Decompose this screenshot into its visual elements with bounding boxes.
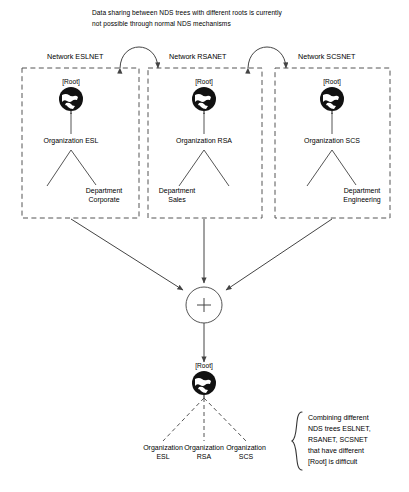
diagram-canvas: Data sharing between NDS trees with diff… <box>0 0 409 492</box>
callout-line1: Combining different <box>308 413 369 423</box>
root-label-rsanet: [Root] <box>195 78 213 86</box>
department-label-corporate-line2: Corporate <box>88 196 119 204</box>
merged-organization-esl-line2: ESL <box>156 453 169 461</box>
callout-line3: RSANET, SCSNET <box>308 435 368 445</box>
merge-node-circle <box>186 287 222 323</box>
merged-organization-scs-line2: SCS <box>239 453 253 461</box>
organization-label-esl: Organization ESL <box>44 137 99 145</box>
diagram-caption-line1: Data sharing between NDS trees with diff… <box>92 9 282 17</box>
sharing-arc-rsa-scs <box>248 47 286 68</box>
department-label-engineering-line1: Department <box>344 187 381 195</box>
merged-tree-edges <box>163 398 246 441</box>
merged-root-label: [Root] <box>195 362 213 370</box>
network-label-eslnet: Network ESLNET <box>47 53 103 61</box>
organization-label-scs: Organization SCS <box>304 137 360 145</box>
tree-edges-rsanet <box>179 113 229 186</box>
callout-line5: [Root] is difficult <box>308 457 357 467</box>
globe-icon <box>190 370 218 402</box>
network-label-scsnet: Network SCSNET <box>298 53 356 61</box>
merged-organization-rsa-line1: Organization <box>184 444 224 452</box>
curly-brace-icon <box>292 412 302 470</box>
merge-arrow-from-scsnet <box>226 219 332 290</box>
department-label-engineering-line2: Engineering <box>343 196 380 204</box>
network-label-rsanet: Network RSANET <box>169 53 227 61</box>
sharing-arc-esl-rsa <box>120 47 158 68</box>
root-label-scsnet: [Root] <box>323 78 341 86</box>
merged-organization-scs-line1: Organization <box>226 444 266 452</box>
department-label-sales-line2: Sales <box>168 196 186 204</box>
department-label-sales-line1: Department <box>159 187 196 195</box>
tree-edges-eslnet <box>47 113 96 186</box>
globe-icon <box>57 86 85 118</box>
organization-label-rsa: Organization RSA <box>176 137 232 145</box>
merged-organization-rsa-line2: RSA <box>197 453 211 461</box>
globe-icon <box>318 86 346 118</box>
root-label-eslnet: [Root] <box>62 78 80 86</box>
merged-organization-esl-line1: Organization <box>143 444 183 452</box>
globe-icon <box>190 86 218 118</box>
callout-line4: that have different <box>308 446 364 456</box>
department-label-corporate-line1: Department <box>86 187 123 195</box>
merge-arrow-from-eslnet <box>71 219 183 290</box>
callout-line2: NDS trees ESLNET, <box>308 424 371 434</box>
tree-edges-scsnet <box>307 113 356 186</box>
diagram-caption-line2: not possible through normal NDS mechanis… <box>92 20 231 28</box>
